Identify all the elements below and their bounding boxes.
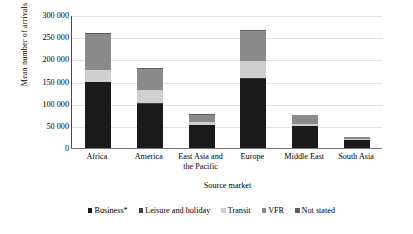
legend-swatch-icon bbox=[139, 208, 144, 213]
bar-segment bbox=[292, 115, 318, 124]
bar-stack bbox=[344, 137, 370, 148]
bar-segment bbox=[240, 61, 266, 79]
legend-label: Not stated bbox=[302, 206, 335, 215]
bar-segment bbox=[85, 34, 111, 70]
bar-stack bbox=[292, 115, 318, 148]
bar-stack bbox=[137, 68, 163, 148]
y-axis-tick-label: 100 000 bbox=[9, 100, 69, 109]
bar-segment bbox=[189, 115, 215, 123]
bar-stack bbox=[240, 30, 266, 148]
bar-segment bbox=[137, 104, 163, 148]
plot-area bbox=[71, 16, 382, 149]
legend-label: Business* bbox=[94, 206, 127, 215]
legend-item[interactable]: Not stated bbox=[295, 206, 335, 215]
x-axis-tick-label: Africa bbox=[71, 152, 123, 162]
legend-label: VFR bbox=[268, 206, 284, 215]
legend-swatch-icon bbox=[88, 208, 93, 213]
legend-item[interactable]: VFR bbox=[262, 206, 284, 215]
x-axis-tick-label: Europe bbox=[227, 152, 279, 162]
legend-item[interactable]: Leisure and holiday bbox=[139, 206, 211, 215]
x-axis-title: Source market bbox=[0, 181, 413, 190]
bar-segment bbox=[189, 125, 215, 148]
bar-segment bbox=[344, 140, 370, 148]
legend-swatch-icon bbox=[295, 208, 300, 213]
y-axis-tick-label: 250 000 bbox=[9, 33, 69, 42]
legend-swatch-icon bbox=[221, 208, 226, 213]
stacked-bar-chart: Mean number of arrivals 300 000250 00020… bbox=[0, 0, 413, 234]
chart-legend: Business*Leisure and holidayTransitVFRNo… bbox=[0, 206, 413, 215]
x-axis-tick-label: South Asia bbox=[330, 152, 382, 162]
y-axis-tick-label: 200 000 bbox=[9, 55, 69, 64]
bar-segment bbox=[137, 69, 163, 90]
y-axis-tick-label: 150 000 bbox=[9, 78, 69, 87]
bar-segment bbox=[85, 70, 111, 82]
bar-segment bbox=[137, 90, 163, 103]
bar-series-container bbox=[72, 16, 382, 148]
y-axis-tick-label: 300 000 bbox=[9, 11, 69, 20]
bar-segment bbox=[240, 31, 266, 61]
legend-label: Transit bbox=[228, 206, 251, 215]
bar-segment bbox=[85, 82, 111, 148]
legend-swatch-icon bbox=[262, 208, 267, 213]
bar-stack bbox=[189, 114, 215, 148]
legend-item[interactable]: Business* bbox=[88, 206, 128, 215]
bar-stack bbox=[85, 33, 111, 148]
bar-segment bbox=[292, 126, 318, 148]
legend-label: Leisure and holiday bbox=[145, 206, 210, 215]
x-axis-tick-label: America bbox=[123, 152, 175, 162]
x-axis-tick-label: Middle East bbox=[278, 152, 330, 162]
x-axis-tick-label: East Asia and the Pacific bbox=[175, 152, 227, 171]
y-axis-tick-label: 50 000 bbox=[9, 122, 69, 131]
y-axis-tick-label: 0 bbox=[9, 144, 69, 153]
bar-segment bbox=[240, 79, 266, 148]
legend-item[interactable]: Transit bbox=[221, 206, 250, 215]
